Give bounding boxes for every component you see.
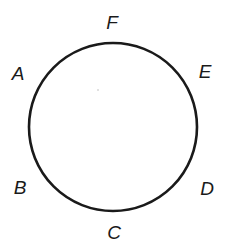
circle <box>29 43 197 211</box>
point-label-c: C <box>107 222 121 243</box>
point-label-a: A <box>11 63 25 84</box>
point-label-b: B <box>14 177 27 198</box>
point-label-d: D <box>200 178 214 199</box>
point-label-f: F <box>106 12 119 33</box>
point-label-e: E <box>199 61 212 82</box>
circle-diagram: F A E B D C <box>0 0 228 249</box>
center-dot <box>97 89 99 91</box>
